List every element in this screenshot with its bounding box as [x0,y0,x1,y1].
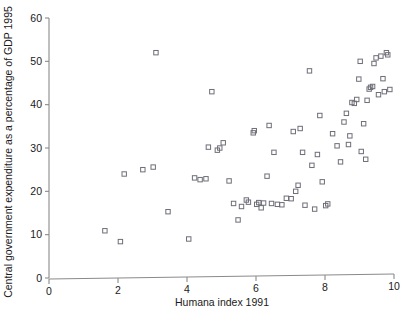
data-point [187,237,191,241]
data-point [300,150,304,154]
data-point [307,69,311,73]
data-point [154,50,158,54]
data-point [364,157,368,161]
data-point [206,145,210,149]
data-point [267,123,271,127]
y-tick-label-30: 30 [30,142,42,154]
data-point [346,142,350,146]
data-point [269,201,273,205]
data-point [344,111,348,115]
data-point [359,149,363,153]
data-point [204,177,208,181]
data-point [122,172,126,176]
data-point [388,87,392,91]
data-point [379,54,383,58]
data-point [227,179,231,183]
y-tick-label-60: 60 [30,12,42,24]
x-tick-label-10: 10 [388,280,400,292]
data-point [357,77,361,81]
data-point [374,56,378,60]
y-tick-label-20: 20 [30,185,42,197]
data-point [210,89,214,93]
scatter-plot-figure: 0102030405060 0246810 Humana index 1991 … [0,0,406,314]
data-point [296,183,300,187]
data-point [318,113,322,117]
data-point [372,61,376,65]
data-point [381,76,385,80]
data-point [291,129,295,133]
data-point [348,134,352,138]
x-tick-label-4: 4 [184,283,190,295]
data-point [239,204,243,208]
data-point [315,152,319,156]
data-point [231,201,235,205]
data-point [166,210,170,214]
data-point [293,189,297,193]
data-point [382,89,386,93]
data-point [376,93,380,97]
data-point [338,160,342,164]
x-tick-label-6: 6 [253,282,259,294]
data-point [358,59,362,63]
x-axis: 0246810 [46,274,400,297]
y-axis-title: Central government expenditure as a perc… [2,6,14,298]
data-markers [103,50,392,243]
x-axis-spine [49,274,394,279]
plot-canvas: 0102030405060 0246810 Humana index 1991 … [0,0,406,314]
data-point [320,180,324,184]
data-point [198,177,202,181]
x-tick-label-2: 2 [115,284,121,296]
data-point [259,206,263,210]
x-tick-label-8: 8 [322,281,328,293]
x-tick-label-0: 0 [46,285,52,297]
data-point [298,126,302,130]
data-point [151,165,155,169]
x-axis-title: Humana index 1991 [175,296,269,308]
data-point [261,201,265,205]
data-point [303,203,307,207]
data-point [365,98,369,102]
data-point [312,207,316,211]
y-tick-label-0: 0 [36,272,42,284]
data-point [265,174,269,178]
y-tick-label-40: 40 [30,98,42,110]
data-point [221,141,225,145]
data-point [280,203,284,207]
data-point [118,239,122,243]
y-tick-label-10: 10 [30,228,42,240]
data-point [284,196,288,200]
data-point [272,150,276,154]
data-point [141,167,145,171]
data-point [342,120,346,124]
data-point [310,163,314,167]
data-point [289,197,293,201]
data-point [335,144,339,148]
data-point [330,132,334,136]
y-axis: 0102030405060 [30,12,49,284]
data-point [236,218,240,222]
data-point [275,202,279,206]
data-point [103,229,107,233]
data-point [192,176,196,180]
y-tick-label-50: 50 [30,55,42,67]
data-point [361,122,365,126]
